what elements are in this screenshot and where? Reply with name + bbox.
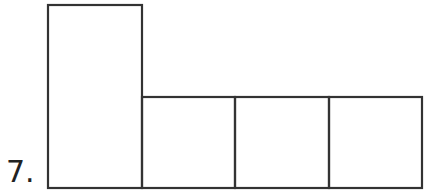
square-3 — [329, 97, 422, 188]
square-2 — [235, 97, 329, 188]
shape-figure — [0, 0, 439, 191]
square-1 — [142, 97, 235, 188]
tall-rectangle — [48, 5, 142, 188]
